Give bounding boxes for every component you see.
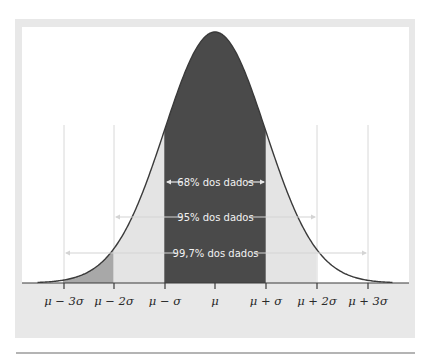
range-68: 68% dos dados [166,177,265,188]
tick-label: μ [211,294,218,308]
tick-label: μ − σ [149,294,182,308]
tick-label: μ + 2σ [297,294,338,308]
label-997: 99,7% dos dados [173,248,259,259]
label-95: 95% dos dados [177,212,253,223]
normal-distribution-figure: 68% dos dados 95% dos dados 99,7% dos da… [0,0,429,358]
tick-label: μ − 3σ [44,294,85,308]
tick-label: μ + σ [250,294,283,308]
tick-label: μ − 2σ [94,294,135,308]
tick-label: μ + 3σ [348,294,389,308]
label-68: 68% dos dados [177,177,253,188]
